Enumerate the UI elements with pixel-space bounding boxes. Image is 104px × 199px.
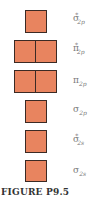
orbital-label-sigma-star-2s: σ*2s (73, 135, 84, 144)
orbital-label-pi-star-2p: π*2p (73, 44, 85, 53)
orbital-box-pi-star-2p (14, 40, 57, 63)
orbital-slot (35, 71, 56, 92)
orbital-box-sigma-star-2s (25, 130, 47, 153)
orbital-box-sigma-2s (25, 160, 47, 182)
orbital-box-pi-2p (14, 70, 57, 93)
orbital-box-sigma-2p (25, 100, 47, 123)
orbital-slot (35, 41, 56, 62)
orbital-label-pi-2p: π2p (73, 76, 87, 85)
orbital-slot (15, 71, 35, 92)
orbital-label-sigma-2p: σ2p (73, 105, 87, 114)
orbital-label-sigma-star-2p: σ*2p (73, 14, 85, 23)
orbital-box-sigma-star-2p (25, 10, 47, 33)
orbital-label-sigma-2s: σ2s (73, 166, 86, 175)
orbital-slot (15, 41, 35, 62)
figure-caption: FIGURE P9.5 (1, 187, 69, 197)
